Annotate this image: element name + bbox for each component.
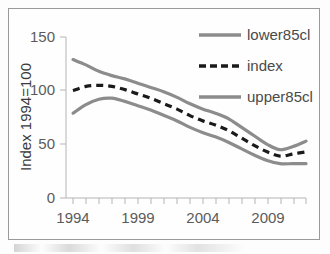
y-tick-label-0: 0	[47, 189, 55, 206]
y-tick-label-50: 50	[38, 135, 55, 152]
legend-item-upper85cl[interactable]: upper85cl	[199, 88, 313, 105]
y-axis-title: Index 1994=100	[17, 63, 34, 171]
x-tick-label-2009: 2009	[251, 209, 284, 226]
y-axis-ticks	[60, 37, 66, 198]
x-tick-label-1994: 1994	[56, 209, 89, 226]
x-axis-ticks	[73, 198, 306, 204]
legend-item-index[interactable]: index	[199, 57, 283, 74]
y-tick-label-150: 150	[30, 28, 55, 45]
legend-label-lower85cl: lower85cl	[247, 26, 310, 43]
line-chart: 150 100 50 0 Index 1994=100	[9, 9, 319, 239]
chart-frame: 150 100 50 0 Index 1994=100	[8, 8, 320, 240]
legend-item-lower85cl[interactable]: lower85cl	[199, 26, 310, 43]
legend-label-upper85cl: upper85cl	[247, 88, 313, 105]
legend-label-index: index	[247, 57, 283, 74]
x-tick-label-1999: 1999	[121, 209, 154, 226]
x-tick-label-2004: 2004	[186, 209, 219, 226]
series-group	[73, 60, 306, 164]
scan-artifact	[14, 244, 244, 252]
figure-container: 150 100 50 0 Index 1994=100	[0, 0, 330, 254]
chart-legend: lower85cl index upper85cl	[199, 26, 313, 105]
series-line-lower85cl	[73, 98, 306, 164]
